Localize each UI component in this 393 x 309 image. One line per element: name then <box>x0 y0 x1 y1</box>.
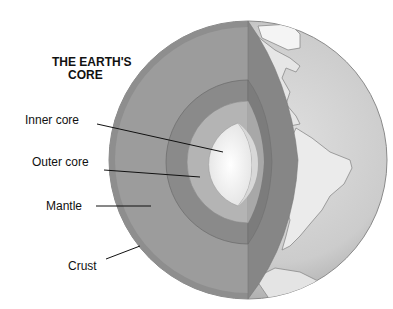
crust-leader <box>106 246 140 259</box>
label-mantle: Mantle <box>46 199 82 213</box>
globe <box>109 21 387 300</box>
label-inner-core: Inner core <box>25 113 79 127</box>
label-crust: Crust <box>68 259 97 273</box>
diagram-title-line2: CORE <box>68 68 103 82</box>
diagram-title-line1: THE EARTH'S <box>52 55 132 69</box>
label-outer-core: Outer core <box>32 155 89 169</box>
earth-core-diagram: THE EARTH'S CORE Inner core Outer core M… <box>0 0 393 309</box>
